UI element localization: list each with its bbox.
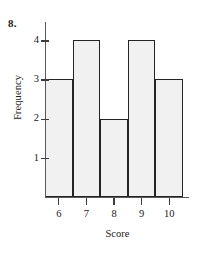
bar-score-10 bbox=[155, 79, 183, 197]
y-tick-mark-3 bbox=[41, 79, 49, 80]
x-tick-label-7: 7 bbox=[74, 208, 98, 219]
plot-area: 1 2 3 4 6 7 8 9 10 Score Frequency bbox=[0, 0, 197, 259]
bar-score-9 bbox=[128, 40, 156, 197]
y-tick-label-2: 2 bbox=[27, 112, 39, 123]
y-tick-label-1: 1 bbox=[27, 152, 39, 163]
y-axis-title: Frequency bbox=[12, 53, 23, 143]
y-tick-label-3: 3 bbox=[27, 73, 39, 84]
x-tick-mark-8 bbox=[113, 198, 114, 205]
x-tick-label-6: 6 bbox=[47, 208, 71, 219]
x-axis-line bbox=[45, 197, 189, 198]
x-tick-mark-6 bbox=[58, 198, 59, 205]
x-tick-mark-10 bbox=[169, 198, 170, 205]
y-tick-mark-1 bbox=[41, 158, 49, 159]
bar-score-6 bbox=[45, 79, 73, 197]
y-tick-mark-4 bbox=[41, 40, 49, 41]
x-axis-title: Score bbox=[0, 228, 197, 239]
y-tick-mark-2 bbox=[41, 119, 49, 120]
histogram-figure: 8. 1 2 3 4 6 7 8 9 10 Score Frequency bbox=[0, 0, 197, 259]
bar-score-8 bbox=[100, 119, 128, 197]
bar-score-7 bbox=[73, 40, 101, 197]
x-tick-mark-7 bbox=[86, 198, 87, 205]
x-tick-label-10: 10 bbox=[157, 208, 181, 219]
x-tick-label-9: 9 bbox=[130, 208, 154, 219]
x-tick-mark-9 bbox=[141, 198, 142, 205]
y-axis-line bbox=[45, 22, 46, 198]
y-tick-label-4: 4 bbox=[27, 34, 39, 45]
x-tick-label-8: 8 bbox=[102, 208, 126, 219]
